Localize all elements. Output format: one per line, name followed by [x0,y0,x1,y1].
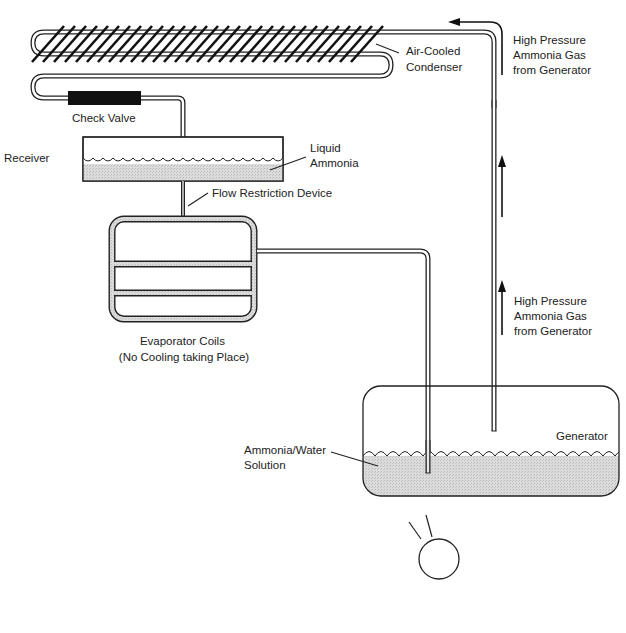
evaporator-return-pipe [257,251,428,473]
solution-label: Ammonia/Water Solution [244,444,329,471]
flow-restriction-device: Flow Restriction Device [183,181,332,218]
generator-label: Generator [556,430,608,442]
receiver-tank: Receiver Liquid Ammonia [4,137,359,181]
flow-restriction-label: Flow Restriction Device [212,187,332,199]
check-valve [68,91,141,105]
heat-ray-icon [426,515,432,537]
evaporator-coils: Evaporator Coils (No Cooling taking Plac… [112,219,254,363]
gas-label-mid: High Pressure Ammonia Gas from Generator [514,295,592,337]
condenser-label: Air-Cooled Condenser [406,45,464,73]
liquid-ammonia-label: Liquid Ammonia [310,142,359,169]
receiver-label: Receiver [4,152,50,164]
heat-ray-icon [409,522,421,539]
refrigeration-diagram: Air-Cooled Condenser Check Valve Receive… [0,0,626,633]
heat-source [409,512,459,579]
generator-tank: Generator Ammonia/Water Solution [244,386,626,500]
evaporator-label: Evaporator Coils (No Cooling taking Plac… [119,335,250,363]
check-valve-line: Check Valve [68,91,183,137]
check-valve-label: Check Valve [72,112,136,124]
generator-riser-pipe [492,100,497,431]
burner-icon [419,539,459,579]
gas-label-top: High Pressure Ammonia Gas from Generator [513,34,591,76]
flow-restriction-leader [188,193,208,206]
